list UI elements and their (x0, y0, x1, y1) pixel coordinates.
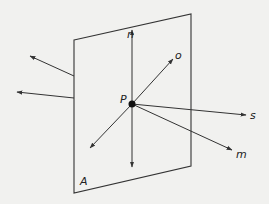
label-m: m (236, 149, 247, 160)
vector-m (132, 104, 232, 150)
vector-s (132, 104, 246, 115)
vector-left-upper (30, 56, 74, 76)
label-n: n (127, 29, 134, 40)
point-p-dot (129, 101, 136, 108)
diagram-svg (0, 0, 269, 204)
vector-o (132, 59, 173, 104)
label-s: s (250, 110, 256, 121)
label-o: o (175, 50, 182, 61)
diagram-canvas: n o s m P A (0, 0, 269, 204)
label-a: A (80, 176, 88, 187)
vector-lower-left (90, 104, 132, 148)
label-p: P (120, 94, 127, 105)
vector-left-lower (17, 92, 74, 98)
